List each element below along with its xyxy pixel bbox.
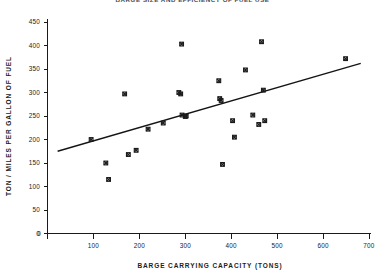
y-axis-ticks (44, 22, 48, 234)
x-axis-title: BARGE CARRYING CAPACITY (TONS) (137, 262, 282, 270)
x-tick-label: 500 (272, 242, 284, 249)
data-point (244, 68, 248, 72)
x-tick-label: 300 (180, 242, 192, 249)
x-tick-label: 400 (226, 242, 238, 249)
x-axis-ticks (48, 234, 370, 239)
data-point (184, 114, 188, 118)
data-point (123, 92, 127, 96)
y-tick-label: 350 (29, 65, 41, 72)
data-point (221, 163, 225, 167)
data-point (179, 92, 183, 96)
y-tick-label: 150 (29, 159, 41, 166)
data-point-markers (89, 40, 347, 181)
x-tick-label: 100 (88, 242, 100, 249)
scatter-plot-canvas: 050100150200250300350400450 TON / MILES … (0, 0, 385, 276)
y-axis-tick-labels: 050100150200250300350400450 (29, 18, 41, 237)
data-point (233, 135, 237, 139)
x-tick-label: 200 (134, 242, 146, 249)
y-tick-label: 450 (29, 18, 41, 25)
data-point (180, 42, 184, 46)
data-point (260, 40, 264, 44)
data-point (231, 119, 235, 123)
x-origin-label: 0 (37, 230, 41, 237)
chart-figure: BARGE SIZE AND EFFICIENCY OF FUEL USE 05… (0, 0, 385, 276)
x-tick-label: 700 (363, 242, 375, 249)
data-point (126, 153, 130, 157)
data-point (107, 178, 111, 182)
y-axis: 050100150200250300350400450 TON / MILES … (5, 18, 48, 237)
y-tick-label: 200 (29, 136, 41, 143)
data-point (219, 99, 223, 103)
y-tick-label: 250 (29, 112, 41, 119)
x-axis-tick-labels: 1002003004005006007000 (37, 230, 375, 249)
data-point (251, 113, 255, 117)
data-point (104, 161, 108, 165)
data-point (134, 148, 138, 152)
chart-title: BARGE SIZE AND EFFICIENCY OF FUEL USE (0, 0, 385, 4)
regression-line (58, 63, 361, 151)
data-point (146, 127, 150, 131)
data-point (161, 121, 165, 125)
x-tick-label: 600 (317, 242, 329, 249)
y-tick-label: 300 (29, 89, 41, 96)
data-point (257, 123, 261, 127)
y-axis-title: TON / MILES PER GALLON OF FUEL (5, 56, 12, 196)
data-point (262, 88, 266, 92)
y-tick-label: 50 (32, 206, 40, 213)
data-point (217, 79, 221, 83)
y-tick-label: 100 (29, 183, 41, 190)
y-tick-label: 400 (29, 42, 41, 49)
x-axis: 1002003004005006007000 BARGE CARRYING CA… (37, 230, 375, 270)
data-point (263, 119, 267, 123)
data-point (89, 138, 93, 142)
regression-line-path (58, 63, 361, 151)
data-point (344, 57, 348, 61)
